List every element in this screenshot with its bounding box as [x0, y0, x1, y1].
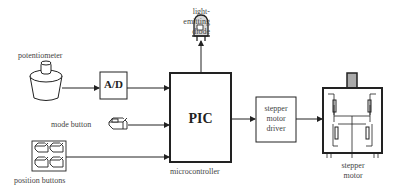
- driver-label-line1: stepper: [256, 104, 296, 114]
- led-label: light- emitting diode: [176, 7, 210, 37]
- stepper-motor-icon: [323, 73, 382, 158]
- mode-button-label: mode button: [51, 120, 91, 130]
- motor-label: stepper motor: [333, 161, 373, 181]
- driver-label-line2: motor: [256, 114, 296, 124]
- driver-label: stepper motor driver: [256, 104, 296, 134]
- position-buttons-label: position buttons: [14, 176, 65, 186]
- ad-label: A/D: [100, 79, 127, 89]
- microcontroller-label: microcontroller: [170, 167, 220, 177]
- driver-label-line3: driver: [256, 124, 296, 134]
- mode-button-icon: [109, 118, 127, 129]
- motor-label-line1: stepper: [333, 161, 373, 171]
- led-label-line3: diode: [176, 27, 210, 37]
- potentiometer-icon: [30, 61, 62, 101]
- motor-label-line2: motor: [333, 171, 373, 181]
- pic-label: PIC: [170, 112, 231, 126]
- led-label-line1: light-: [176, 7, 210, 17]
- position-buttons-icon: [32, 141, 66, 171]
- potentiometer-label: potentiometer: [18, 51, 62, 61]
- led-label-line2: emitting: [166, 17, 210, 27]
- block-diagram: light- emitting diode potentiometer A/D …: [0, 0, 394, 193]
